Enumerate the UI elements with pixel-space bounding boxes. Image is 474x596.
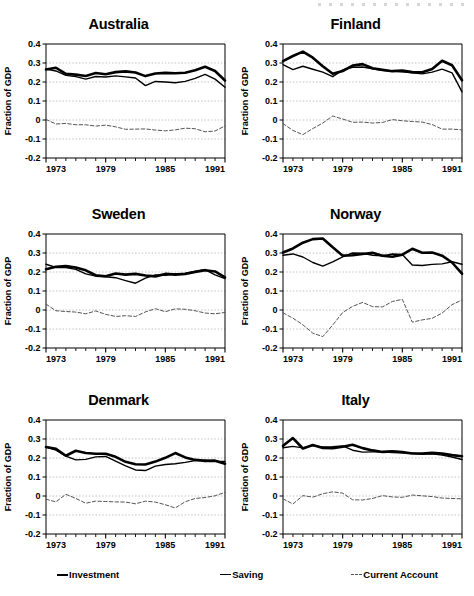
y-tick-label: 0.1 xyxy=(28,472,41,482)
series-line-saving xyxy=(283,253,462,266)
y-axis-label: Fraction of GDP xyxy=(240,257,250,326)
plot-area: 0.40.30.20.10-0.1-0.21973197919851991Fra… xyxy=(0,224,237,374)
series-line-current-account xyxy=(46,119,225,131)
y-tick-label: 0 xyxy=(272,305,277,315)
y-tick-label: 0.2 xyxy=(28,77,41,87)
series-line-investment xyxy=(283,239,462,274)
y-tick-label: 0.3 xyxy=(28,248,41,258)
series-line-current-account xyxy=(283,492,462,504)
legend-label: Current Account xyxy=(363,569,438,580)
panel-chart-italy: 0.40.30.20.10-0.1-0.21973197919851991Fra… xyxy=(237,410,474,560)
panel-denmark: Denmark 0.40.30.20.10-0.1-0.219731979198… xyxy=(0,376,237,556)
x-tick-label: 1985 xyxy=(155,540,175,550)
y-tick-label: 0 xyxy=(272,115,277,125)
y-tick-label: 0.3 xyxy=(28,434,41,444)
y-tick-label: 0.4 xyxy=(265,39,278,49)
panel-title: Denmark xyxy=(0,376,237,410)
y-tick-label: 0.4 xyxy=(265,415,278,425)
y-tick-label: -0.1 xyxy=(262,510,278,520)
y-tick-label: 0.2 xyxy=(265,77,278,87)
y-tick-label: -0.1 xyxy=(262,134,278,144)
figure-root: Australia 0.40.30.20.10-0.1-0.2197319791… xyxy=(0,0,474,596)
legend-item-investment: Investment xyxy=(57,562,119,586)
x-tick-label: 1991 xyxy=(205,540,225,550)
panel-chart-sweden: 0.40.30.20.10-0.1-0.21973197919851991Fra… xyxy=(0,224,237,374)
y-axis-label: Fraction of GDP xyxy=(3,257,13,326)
y-tick-label: 0 xyxy=(35,115,40,125)
plot-area: 0.40.30.20.10-0.1-0.21973197919851991Fra… xyxy=(237,34,474,184)
solid-thin-line-icon xyxy=(220,570,231,579)
y-tick-label: 0.1 xyxy=(265,286,278,296)
y-axis-label: Fraction of GDP xyxy=(3,67,13,136)
y-tick-label: -0.1 xyxy=(25,324,41,334)
x-tick-label: 1985 xyxy=(392,354,412,364)
y-tick-label: -0.2 xyxy=(262,153,278,163)
y-tick-label: 0 xyxy=(272,491,277,501)
y-tick-label: 0.3 xyxy=(28,58,41,68)
y-tick-label: -0.2 xyxy=(25,529,41,539)
y-tick-label: 0 xyxy=(35,491,40,501)
series-line-current-account xyxy=(46,492,225,508)
y-tick-label: 0.1 xyxy=(265,472,278,482)
x-tick-label: 1979 xyxy=(96,164,116,174)
x-tick-label: 1973 xyxy=(46,164,66,174)
x-tick-label: 1973 xyxy=(283,354,303,364)
y-tick-label: -0.1 xyxy=(262,324,278,334)
panel-chart-australia: 0.40.30.20.10-0.1-0.21973197919851991Fra… xyxy=(0,34,237,184)
x-tick-label: 1973 xyxy=(46,540,66,550)
x-tick-label: 1991 xyxy=(442,540,462,550)
legend-label: Investment xyxy=(69,569,119,580)
x-tick-label: 1991 xyxy=(442,164,462,174)
y-tick-label: 0.1 xyxy=(28,96,41,106)
series-line-investment xyxy=(283,52,462,81)
panel-sweden: Sweden 0.40.30.20.10-0.1-0.2197319791985… xyxy=(0,190,237,376)
panel-title: Italy xyxy=(237,376,474,410)
panel-chart-norway: 0.40.30.20.10-0.1-0.21973197919851991Fra… xyxy=(237,224,474,374)
solid-thick-line-icon xyxy=(57,570,68,579)
x-tick-label: 1979 xyxy=(333,540,353,550)
y-tick-label: -0.1 xyxy=(25,134,41,144)
series-line-saving xyxy=(46,447,225,471)
panel-title: Australia xyxy=(0,0,237,34)
y-axis-label: Fraction of GDP xyxy=(3,443,13,512)
y-tick-label: 0.1 xyxy=(265,96,278,106)
y-tick-label: -0.2 xyxy=(262,343,278,353)
plot-area: 0.40.30.20.10-0.1-0.21973197919851991Fra… xyxy=(0,34,237,184)
y-tick-label: 0.2 xyxy=(265,453,278,463)
panel-norway: Norway 0.40.30.20.10-0.1-0.2197319791985… xyxy=(237,190,474,376)
y-tick-label: 0.4 xyxy=(28,39,41,49)
plot-area: 0.40.30.20.10-0.1-0.21973197919851991Fra… xyxy=(237,410,474,560)
panel-title: Sweden xyxy=(0,190,237,224)
plot-area: 0.40.30.20.10-0.1-0.21973197919851991Fra… xyxy=(0,410,237,560)
x-tick-label: 1979 xyxy=(333,354,353,364)
y-tick-label: 0.4 xyxy=(28,415,41,425)
y-tick-label: -0.2 xyxy=(25,343,41,353)
series-line-current-account xyxy=(283,116,462,135)
y-tick-label: 0.2 xyxy=(265,267,278,277)
series-line-current-account xyxy=(283,299,462,336)
y-tick-label: 0.4 xyxy=(28,229,41,239)
y-tick-label: -0.2 xyxy=(262,529,278,539)
panel-chart-finland: 0.40.30.20.10-0.1-0.21973197919851991Fra… xyxy=(237,34,474,184)
y-tick-label: -0.1 xyxy=(25,510,41,520)
legend-item-saving: Saving xyxy=(220,562,263,586)
panel-chart-denmark: 0.40.30.20.10-0.1-0.21973197919851991Fra… xyxy=(0,410,237,560)
panel-australia: Australia 0.40.30.20.10-0.1-0.2197319791… xyxy=(0,0,237,190)
x-tick-label: 1979 xyxy=(96,540,116,550)
panel-finland: Finland 0.40.30.20.10-0.1-0.219731979198… xyxy=(237,0,474,190)
y-tick-label: 0.2 xyxy=(28,267,41,277)
x-tick-label: 1991 xyxy=(205,164,225,174)
x-tick-label: 1985 xyxy=(392,164,412,174)
x-tick-label: 1979 xyxy=(333,164,353,174)
chart-legend: Investment Saving Current Account xyxy=(0,562,474,586)
x-tick-label: 1973 xyxy=(283,540,303,550)
series-line-investment xyxy=(283,438,462,456)
x-tick-label: 1985 xyxy=(155,164,175,174)
y-tick-label: 0.4 xyxy=(265,229,278,239)
y-tick-label: 0.3 xyxy=(265,434,278,444)
panel-grid: Australia 0.40.30.20.10-0.1-0.2197319791… xyxy=(0,0,474,556)
x-tick-label: 1979 xyxy=(96,354,116,364)
y-tick-label: 0.3 xyxy=(265,58,278,68)
panel-title: Finland xyxy=(237,0,474,34)
y-tick-label: 0.2 xyxy=(28,453,41,463)
